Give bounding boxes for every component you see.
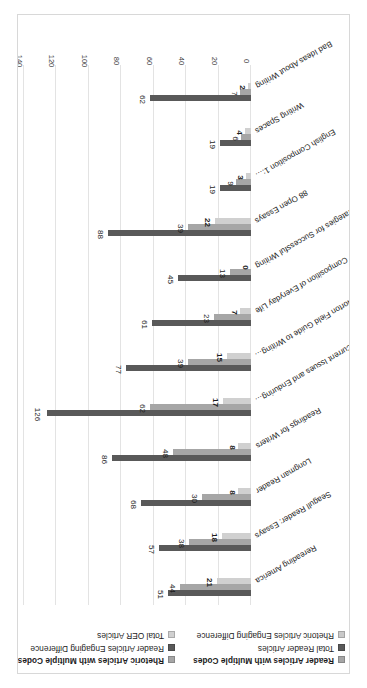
bar-multiple-codes [189,539,251,545]
bar-value-label: 19 [208,185,217,194]
bar-engaging-difference [245,128,251,134]
legend-item[interactable]: Reader Articles Engaging Difference [23,643,175,652]
bar-value-label: 45 [166,275,175,284]
axis-tick-label: 40 [177,57,186,65]
bar-group: 45130 [24,245,251,290]
bar-value-label: 62 [138,95,147,104]
legend-swatch-icon [338,631,345,638]
bar-value-label: 6 [232,136,241,141]
category-label: English Composition 1:… [254,127,337,180]
legend-item[interactable]: Total Reader Articles [177,643,345,652]
bar-value-label: 3 [236,175,245,180]
legend-swatch-icon [168,656,175,663]
bar-engaging-difference [223,398,251,404]
legend-swatch-icon [168,644,175,651]
category-axis-labels: Rereading AmericaSeagull Reader: EssaysL… [253,65,345,605]
legend-item-label: Total OER Articles [97,631,164,640]
legend-swatch-icon [338,644,345,651]
bar-group: 68308 [24,470,251,515]
bar-value-label: 86 [100,455,109,464]
legend-swatch-icon [338,656,345,663]
bar-value-label: 61 [140,320,149,329]
bar-value-label: 8 [228,490,237,495]
bar-total [168,590,251,596]
value-axis-tick-labels: 020406080100120140 [24,29,251,63]
bar-group: 883922 [24,200,251,245]
bar-value-label: 51 [156,590,165,599]
bar-value-label: 39 [176,359,185,368]
page-canvas: Reader Articles with Multiple CodesTotal… [0,0,367,688]
bar-engaging-difference [238,443,251,449]
bar-engaging-difference [240,308,251,314]
bar-engaging-difference [238,488,251,494]
bar-total [220,185,251,191]
axis-tick-label: 120 [47,55,56,68]
category-label: Rereading America [254,543,318,585]
legend-item-label: Rhetoric Articles with Multiple Codes [18,656,164,665]
bar-group: 1964 [24,110,251,155]
plot-grid: 5144215738186830886488126621777391561237… [24,65,251,605]
legend-item-label: Reader Articles Engaging Difference [30,643,164,652]
legend-swatch-icon [168,631,175,638]
bar-multiple-codes [173,449,251,455]
chart-legend: Reader Articles with Multiple CodesTotal… [24,609,345,665]
chart-sheet: Reader Articles with Multiple CodesTotal… [17,14,350,674]
bar-value-label: 39 [176,224,185,233]
bar-group: 61237 [24,290,251,335]
bar-engaging-difference [246,173,251,179]
bar-value-label: 23 [202,314,211,323]
bar-value-label: 38 [177,539,186,548]
bar-value-label: 17 [211,398,220,407]
category-label: Writing Spaces [254,101,306,136]
legend-item-label: Reader Articles with Multiple Codes [193,656,334,665]
bar-value-label: 57 [147,545,156,554]
bar-engaging-difference [227,353,251,359]
bar-value-label: 9 [227,181,236,186]
legend-item[interactable]: Rhetoric Articles with Multiple Codes [23,656,175,665]
bar-value-label: 8 [228,445,237,450]
bar-value-label: 62 [138,404,147,413]
legend-item[interactable]: Reader Articles with Multiple Codes [177,656,345,665]
legend-item[interactable]: Rhetoric Articles Engaging Difference [177,631,345,640]
axis-tick-label: 0 [242,59,251,63]
bar-value-label: 77 [114,365,123,374]
bar-value-label: 2 [238,85,247,90]
bar-engaging-difference [217,578,251,584]
legend-item-label: Rhetoric Articles Engaging Difference [197,631,334,640]
axis-tick-label: 60 [145,57,154,65]
bar-value-label: 22 [203,218,212,227]
bar-value-label: 15 [215,353,224,362]
bar-value-label: 13 [218,269,227,278]
bar-multiple-codes [150,404,251,410]
bar-group: 6272 [24,65,251,110]
bar-group: 1266217 [24,380,251,425]
bar-multiple-codes [202,494,251,500]
category-label: Seagull Reader: Essays [254,490,333,541]
bar-value-label: 68 [129,500,138,509]
bar-group: 1993 [24,155,251,200]
bar-value-label: 19 [208,140,217,149]
bar-multiple-codes [180,584,251,590]
bar-value-label: 0 [241,265,250,270]
category-label: Longman Reader [254,456,313,495]
bar-group: 86488 [24,425,251,470]
bar-value-label: 7 [230,91,239,96]
rotated-chart-container: Reader Articles with Multiple CodesTotal… [18,15,350,674]
category-label: 88 Open Essays [254,188,310,225]
bar-engaging-difference [248,83,251,89]
bar-value-label: 7 [230,310,239,315]
legend-item[interactable]: Total OER Articles [23,631,175,640]
bar-value-label: 18 [210,533,219,542]
legend-item-label: Total Reader Articles [258,643,334,652]
bar-total [126,365,251,371]
plot-area: Rereading AmericaSeagull Reader: EssaysL… [24,23,345,605]
bar-value-label: 30 [190,494,199,503]
axis-tick-label: 100 [80,55,89,68]
bar-group: 573818 [24,515,251,560]
bar-value-label: 48 [161,449,170,458]
legend-column-right: Rhetoric Articles with Multiple CodesRea… [23,628,175,665]
axis-tick-label: 20 [210,57,219,65]
bar-group: 514421 [24,560,251,605]
bar-multiple-codes [188,224,251,230]
legend-column-left: Reader Articles with Multiple CodesTotal… [177,628,345,665]
